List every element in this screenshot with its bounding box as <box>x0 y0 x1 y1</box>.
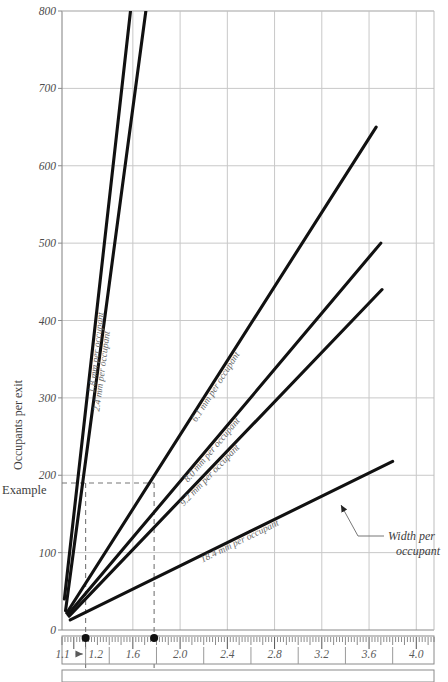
ruler-tick-label: 4.0 <box>409 648 424 660</box>
width-per-occupant-callout: Width per occupant <box>341 505 441 558</box>
ruler-tick-label: 2.8 <box>267 648 282 660</box>
curve-2-4 <box>66 11 146 611</box>
y-tick-label: 0 <box>50 624 56 636</box>
callout-line-2: occupant <box>396 544 441 558</box>
ruler-tick-label: 3.2 <box>314 648 330 660</box>
y-tick-label: 100 <box>39 547 57 559</box>
example-label: Example <box>2 483 47 497</box>
y-axis-title: Occupants per exit <box>11 379 25 470</box>
width-ruler <box>62 636 434 682</box>
example-marker-dot <box>82 634 90 642</box>
ruler-tick-label: 1.1 <box>55 648 69 660</box>
y-tick-label: 300 <box>38 392 57 404</box>
ruler-tick-label: 2.0 <box>173 648 188 660</box>
occupants-per-exit-chart: 0100200300400500600700800 1.8 mm per occ… <box>0 0 448 682</box>
curve-label: 18.4 mm per occupant <box>199 517 281 565</box>
callout-line-1: Width per <box>388 529 435 543</box>
y-tick-label: 200 <box>39 469 57 481</box>
ruler-tick-label: 2.4 <box>220 648 235 660</box>
curve-lines <box>64 11 392 620</box>
chart-figure: 0100200300400500600700800 1.8 mm per occ… <box>0 0 448 682</box>
y-tick-label: 600 <box>39 160 57 172</box>
ruler-tick-label: 3.6 <box>361 648 377 660</box>
ruler-tick-label: 1.2 <box>89 648 104 660</box>
curve-label: 6.1 mm per occupant <box>189 349 242 424</box>
y-tick-label: 700 <box>39 82 57 94</box>
y-tick-label: 500 <box>39 237 57 249</box>
y-tick-label: 400 <box>39 315 57 327</box>
curve-1-8 <box>64 11 130 599</box>
curve-labels: 1.8 mm per occupant2.4 mm per occupant6.… <box>86 311 281 564</box>
ruler-tick-label: 1.6 <box>126 648 141 660</box>
example-marker-dot <box>150 634 158 642</box>
y-axis-ticks: 0100200300400500600700800 <box>38 5 62 636</box>
y-tick-label: 800 <box>39 5 57 17</box>
